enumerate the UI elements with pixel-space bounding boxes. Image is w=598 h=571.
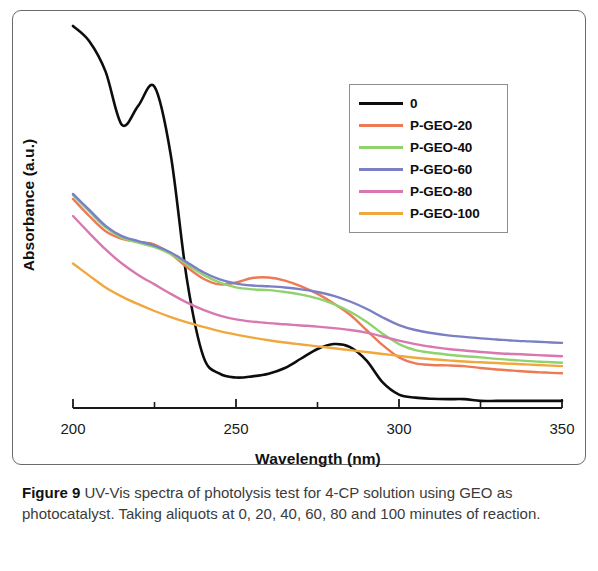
legend-color-swatch — [359, 124, 403, 127]
x-axis-tick-label: 200 — [43, 420, 103, 437]
figure-caption: Figure 9 UV-Vis spectra of photolysis te… — [22, 482, 578, 525]
spectrum-curve-p-geo-80 — [73, 216, 562, 356]
spectra-plot-svg — [0, 0, 598, 470]
figure-caption-text: UV-Vis spectra of photolysis test for 4-… — [22, 484, 540, 522]
legend-item[interactable]: P-GEO-60 — [350, 158, 507, 180]
y-axis-title: Absorbance (a.u.) — [20, 110, 38, 300]
figure-caption-label: Figure 9 — [22, 484, 80, 501]
x-axis-tick-label: 350 — [532, 420, 592, 437]
legend-item[interactable]: 0 — [350, 92, 507, 114]
x-axis-title: Wavelength (nm) — [73, 450, 563, 468]
chart-plot-area: Absorbance (a.u.) Wavelength (nm) 200250… — [0, 0, 598, 470]
legend-item-label: P-GEO-60 — [410, 162, 472, 177]
legend-item-label: P-GEO-100 — [410, 206, 480, 221]
legend-item-label: P-GEO-40 — [410, 140, 472, 155]
x-axis-tick-label: 300 — [369, 420, 429, 437]
legend-color-swatch — [359, 146, 403, 149]
legend-item-label: P-GEO-20 — [410, 118, 472, 133]
legend-item-label: 0 — [410, 96, 417, 111]
legend-color-swatch — [359, 212, 403, 215]
legend-item[interactable]: P-GEO-40 — [350, 136, 507, 158]
legend-color-swatch — [359, 190, 403, 193]
legend-color-swatch — [359, 168, 403, 171]
legend-color-swatch — [359, 102, 403, 105]
legend-item[interactable]: P-GEO-20 — [350, 114, 507, 136]
x-axis-tick-label: 250 — [206, 420, 266, 437]
legend-item[interactable]: P-GEO-80 — [350, 180, 507, 202]
figure-container: Absorbance (a.u.) Wavelength (nm) 200250… — [0, 0, 598, 571]
chart-legend: 0P-GEO-20P-GEO-40P-GEO-60P-GEO-80P-GEO-1… — [349, 84, 508, 233]
legend-item-label: P-GEO-80 — [410, 184, 472, 199]
legend-item[interactable]: P-GEO-100 — [350, 202, 507, 224]
